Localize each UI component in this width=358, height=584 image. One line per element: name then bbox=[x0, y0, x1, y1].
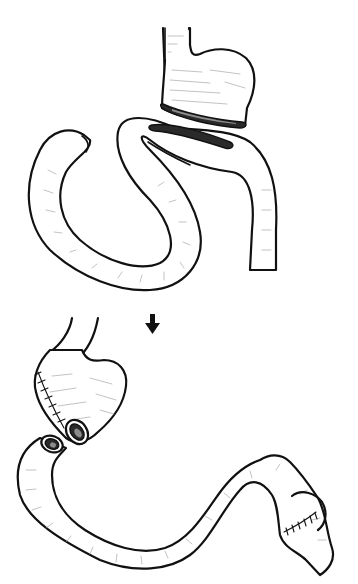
bowel-limb bbox=[18, 438, 333, 575]
arrow-down-icon bbox=[145, 314, 160, 334]
after-panel bbox=[18, 318, 333, 575]
before-panel bbox=[29, 28, 277, 290]
surgical-illustration bbox=[0, 0, 358, 584]
small-bowel-loop bbox=[29, 118, 277, 290]
